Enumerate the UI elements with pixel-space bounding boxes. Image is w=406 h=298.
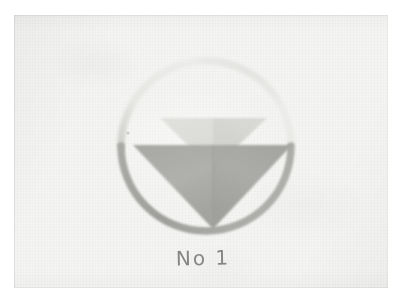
caption-text: No 1 (176, 245, 231, 270)
scanned-page: No 1 (0, 0, 406, 298)
